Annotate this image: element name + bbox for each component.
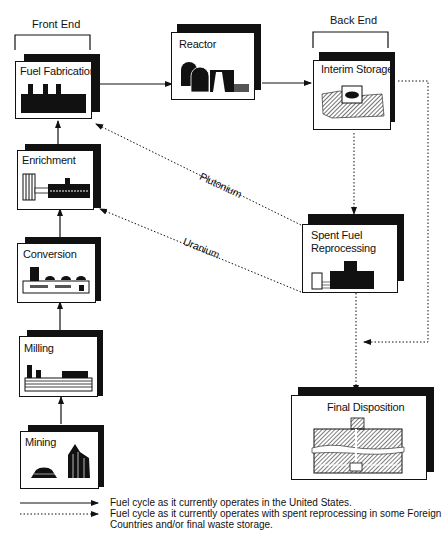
repository-icon xyxy=(0,0,445,537)
legend-dotted-text-cont: Countries and/or final waste storage. xyxy=(110,519,273,531)
